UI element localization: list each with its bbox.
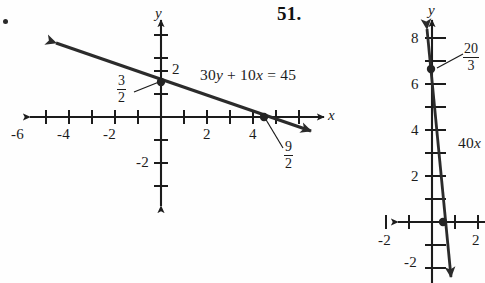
label-nine-halves: 9 2	[284, 140, 293, 172]
x-tick-label-minus4: -4	[57, 127, 70, 142]
point-x-intercept-right	[439, 218, 447, 226]
x-tick-label-4: 4	[249, 127, 257, 142]
x-tick-label-minus2-right: -2	[378, 233, 391, 248]
eq-rhs: = 45	[263, 66, 296, 83]
leader-nine-halves	[265, 118, 283, 148]
eq-operator: +	[223, 66, 240, 83]
equation-label-right: 40x	[458, 135, 481, 151]
point-y-intercept-left	[157, 78, 165, 86]
eq-coef-b: 10	[240, 66, 256, 83]
x-axis-label-left: x	[328, 108, 335, 123]
eq-coef-a: 30	[200, 66, 216, 83]
fraction-denominator: 3	[463, 59, 479, 73]
x-tick-label-minus2: -2	[103, 127, 116, 142]
y-tick-label-2-left: 2	[172, 62, 180, 77]
fraction-denominator: 2	[117, 91, 126, 105]
eq-coef-40: 40	[458, 134, 474, 151]
point-x-intercept-left	[260, 113, 268, 121]
y-axis-ticks-right	[425, 38, 446, 268]
y-axis-label-right: y	[428, 3, 435, 18]
point-y-intercept-right	[427, 65, 435, 73]
y-tick-label-2-right: 2	[411, 169, 419, 184]
eq-var-x-right: x	[474, 134, 481, 151]
y-tick-label-minus2-right: -2	[404, 255, 417, 270]
y-axis-label-left: y	[155, 6, 162, 21]
item-bullet-mark	[3, 19, 8, 24]
y-tick-label-minus2-left: -2	[136, 155, 149, 170]
fraction-numerator: 3	[117, 74, 126, 88]
label-three-halves: 3 2	[117, 74, 126, 106]
exercise-number: 51.	[277, 3, 302, 25]
equation-label-left: 30y + 10x = 45	[200, 67, 296, 83]
y-tick-label-8-right: 8	[411, 31, 419, 46]
x-tick-label-minus6: -6	[11, 127, 24, 142]
leader-three-halves	[134, 82, 159, 92]
y-tick-label-6-right: 6	[411, 77, 419, 92]
x-tick-label-2-right: 2	[472, 233, 480, 248]
x-tick-label-2: 2	[203, 127, 211, 142]
fraction-numerator: 20	[463, 42, 479, 56]
label-twenty-thirds: 20 3	[463, 42, 479, 74]
figure-page: 51. x y -6 -4 -2 2 4 2 -2 30y + 10x = 45…	[0, 0, 485, 283]
fraction-denominator: 2	[284, 157, 293, 171]
y-tick-label-4-right: 4	[411, 123, 419, 138]
eq-var-y: y	[216, 66, 223, 83]
fraction-numerator: 9	[284, 140, 293, 154]
